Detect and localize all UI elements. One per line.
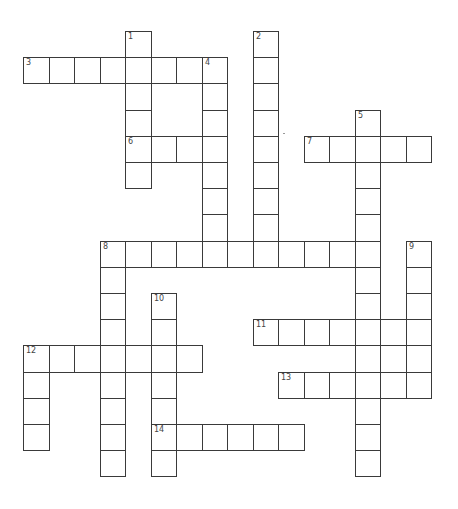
crossword-cell[interactable] bbox=[23, 372, 50, 399]
crossword-cell[interactable] bbox=[355, 293, 381, 320]
crossword-cell[interactable] bbox=[151, 241, 177, 268]
crossword-cell[interactable] bbox=[125, 345, 152, 373]
crossword-cell[interactable] bbox=[202, 136, 228, 163]
crossword-cell[interactable]: 4 bbox=[202, 57, 228, 84]
crossword-cell[interactable] bbox=[406, 372, 432, 399]
crossword-cell[interactable] bbox=[74, 345, 101, 373]
crossword-cell[interactable] bbox=[202, 162, 228, 189]
crossword-cell[interactable]: 12 bbox=[23, 345, 50, 373]
crossword-cell[interactable] bbox=[176, 345, 203, 373]
crossword-cell[interactable] bbox=[304, 372, 330, 399]
crossword-cell[interactable] bbox=[253, 136, 279, 163]
crossword-cell[interactable] bbox=[125, 162, 152, 189]
crossword-cell[interactable] bbox=[23, 424, 50, 451]
crossword-cell[interactable]: 7 bbox=[304, 136, 330, 163]
crossword-cell[interactable] bbox=[100, 319, 126, 346]
crossword-cell[interactable] bbox=[355, 267, 381, 294]
crossword-cell[interactable] bbox=[406, 267, 432, 294]
crossword-cell[interactable] bbox=[125, 83, 152, 111]
crossword-cell[interactable] bbox=[253, 188, 279, 215]
crossword-cell[interactable] bbox=[304, 319, 330, 346]
crossword-cell[interactable] bbox=[329, 319, 356, 346]
crossword-cell[interactable] bbox=[355, 345, 381, 373]
crossword-cell[interactable] bbox=[355, 372, 381, 399]
crossword-cell[interactable]: 2 bbox=[253, 31, 279, 58]
crossword-cell[interactable] bbox=[202, 214, 228, 242]
crossword-cell[interactable] bbox=[406, 345, 432, 373]
crossword-cell[interactable] bbox=[151, 136, 177, 163]
crossword-cell[interactable] bbox=[176, 136, 203, 163]
crossword-cell[interactable] bbox=[202, 241, 228, 268]
crossword-cell[interactable] bbox=[151, 345, 177, 373]
crossword-cell[interactable] bbox=[355, 424, 381, 451]
crossword-cell[interactable] bbox=[227, 241, 254, 268]
crossword-cell[interactable] bbox=[380, 372, 407, 399]
crossword-cell[interactable] bbox=[125, 241, 152, 268]
crossword-cell[interactable] bbox=[49, 345, 75, 373]
crossword-cell[interactable] bbox=[100, 450, 126, 477]
crossword-cell[interactable] bbox=[355, 136, 381, 163]
crossword-cell[interactable] bbox=[227, 424, 254, 451]
crossword-cell[interactable]: 3 bbox=[23, 57, 50, 84]
crossword-cell[interactable] bbox=[253, 162, 279, 189]
crossword-cell[interactable]: 1 bbox=[125, 31, 152, 58]
crossword-cell[interactable] bbox=[202, 188, 228, 215]
crossword-cell[interactable] bbox=[329, 241, 356, 268]
crossword-cell[interactable]: 5 bbox=[355, 110, 381, 137]
crossword-cell[interactable] bbox=[304, 241, 330, 268]
crossword-cell[interactable] bbox=[125, 57, 152, 84]
crossword-cell[interactable] bbox=[176, 57, 203, 84]
crossword-cell[interactable] bbox=[151, 319, 177, 346]
crossword-cell[interactable]: 9 bbox=[406, 241, 432, 268]
crossword-cell[interactable] bbox=[151, 57, 177, 84]
crossword-cell[interactable] bbox=[100, 398, 126, 425]
crossword-cell[interactable] bbox=[176, 424, 203, 451]
crossword-cell[interactable] bbox=[202, 83, 228, 111]
crossword-cell[interactable] bbox=[253, 57, 279, 84]
crossword-cell[interactable] bbox=[151, 372, 177, 399]
crossword-cell[interactable]: 13 bbox=[278, 372, 305, 399]
crossword-cell[interactable] bbox=[100, 372, 126, 399]
crossword-cell[interactable] bbox=[74, 57, 101, 84]
crossword-cell[interactable] bbox=[380, 136, 407, 163]
crossword-cell[interactable] bbox=[100, 57, 126, 84]
crossword-cell[interactable] bbox=[355, 319, 381, 346]
crossword-cell[interactable] bbox=[278, 241, 305, 268]
crossword-cell[interactable]: 8 bbox=[100, 241, 126, 268]
crossword-cell[interactable] bbox=[253, 83, 279, 111]
crossword-cell[interactable] bbox=[100, 267, 126, 294]
crossword-cell[interactable] bbox=[23, 398, 50, 425]
crossword-cell[interactable] bbox=[406, 293, 432, 320]
crossword-cell[interactable] bbox=[100, 345, 126, 373]
crossword-cell[interactable] bbox=[355, 241, 381, 268]
crossword-cell[interactable]: 10 bbox=[151, 293, 177, 320]
crossword-cell[interactable] bbox=[355, 162, 381, 189]
crossword-cell[interactable] bbox=[278, 424, 305, 451]
crossword-cell[interactable]: 6 bbox=[125, 136, 152, 163]
crossword-cell[interactable] bbox=[253, 110, 279, 137]
crossword-cell[interactable] bbox=[355, 398, 381, 425]
crossword-cell[interactable] bbox=[329, 136, 356, 163]
crossword-cell[interactable] bbox=[253, 424, 279, 451]
crossword-cell[interactable] bbox=[278, 319, 305, 346]
crossword-cell[interactable] bbox=[176, 241, 203, 268]
crossword-cell[interactable]: 14 bbox=[151, 424, 177, 451]
crossword-cell[interactable] bbox=[253, 214, 279, 242]
crossword-cell[interactable] bbox=[406, 319, 432, 346]
crossword-cell[interactable] bbox=[355, 188, 381, 215]
crossword-cell[interactable] bbox=[406, 136, 432, 163]
crossword-cell[interactable] bbox=[100, 424, 126, 451]
crossword-cell[interactable] bbox=[355, 450, 381, 477]
crossword-cell[interactable] bbox=[202, 110, 228, 137]
crossword-cell[interactable] bbox=[202, 424, 228, 451]
crossword-cell[interactable] bbox=[329, 372, 356, 399]
crossword-cell[interactable] bbox=[100, 293, 126, 320]
crossword-cell[interactable]: 11 bbox=[253, 319, 279, 346]
crossword-cell[interactable] bbox=[49, 57, 75, 84]
crossword-cell[interactable] bbox=[253, 241, 279, 268]
crossword-cell[interactable] bbox=[151, 398, 177, 425]
crossword-cell[interactable] bbox=[151, 450, 177, 477]
crossword-cell[interactable] bbox=[125, 110, 152, 137]
crossword-cell[interactable] bbox=[355, 214, 381, 242]
crossword-cell[interactable] bbox=[380, 319, 407, 346]
